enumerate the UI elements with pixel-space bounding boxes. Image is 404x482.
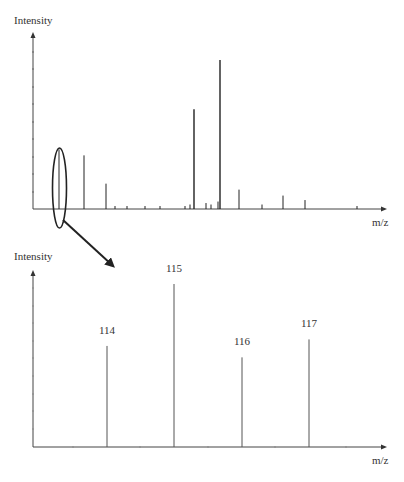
peak-label-114: 114	[99, 324, 116, 336]
bottom-x-axis-arrow-icon	[381, 445, 387, 450]
bottom-peaks: 114115116117	[99, 262, 318, 447]
peak-label-117: 117	[301, 317, 318, 329]
bottom-chart: Intensity m/z 114115116117	[14, 250, 389, 466]
peak-label-115: 115	[166, 262, 183, 274]
top-peaks	[59, 60, 357, 209]
top-chart: Intensity m/z	[14, 14, 389, 228]
top-x-axis-arrow-icon	[381, 207, 387, 212]
mass-spectrum-figure: Intensity m/z Intensity	[0, 0, 404, 482]
top-y-axis-label: Intensity	[14, 14, 53, 26]
bottom-x-axis-label: m/z	[372, 454, 389, 466]
top-x-axis-label: m/z	[372, 216, 389, 228]
zoom-arrow-icon	[63, 220, 112, 265]
bottom-y-axis-arrow-icon	[31, 270, 36, 276]
bottom-y-axis-label: Intensity	[14, 250, 53, 262]
top-y-axis-arrow-icon	[31, 32, 36, 38]
peak-label-116: 116	[234, 335, 251, 347]
